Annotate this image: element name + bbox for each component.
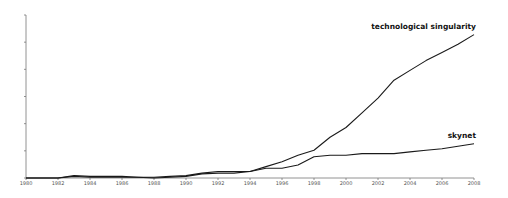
x-tick-label: 2006 <box>436 180 449 186</box>
series-line-technological-singularity <box>26 35 474 178</box>
x-tick-label: 2002 <box>372 180 385 186</box>
x-tick-label: 1980 <box>20 180 33 186</box>
series-labels: technological singularityskynet <box>371 22 476 140</box>
x-tick-label: 1986 <box>116 180 129 186</box>
series-line-skynet <box>26 144 474 178</box>
x-tick-label: 1982 <box>52 180 65 186</box>
x-tick-label: 1984 <box>84 180 97 186</box>
x-tick-label: 1996 <box>276 180 289 186</box>
x-tick-label: 1998 <box>308 180 321 186</box>
series-label: skynet <box>448 131 477 140</box>
x-tick-label: 2004 <box>404 180 417 186</box>
x-tick-label: 1992 <box>212 180 225 186</box>
x-tick-label: 1994 <box>244 180 257 186</box>
x-tick-label: 1988 <box>148 180 161 186</box>
series-lines <box>26 35 474 178</box>
x-tick-label: 2000 <box>340 180 353 186</box>
line-chart: 1980198219841986198819901992199419961998… <box>0 0 508 198</box>
x-axis: 1980198219841986198819901992199419961998… <box>20 178 481 186</box>
series-label: technological singularity <box>371 22 476 31</box>
y-axis <box>24 15 26 178</box>
x-tick-label: 1990 <box>180 180 193 186</box>
x-tick-label: 2008 <box>468 180 481 186</box>
